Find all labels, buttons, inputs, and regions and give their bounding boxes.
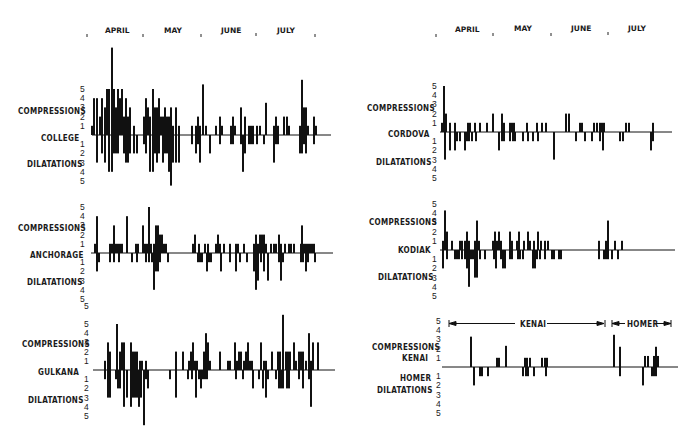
compression-bar [147,107,149,135]
compression-bar [194,361,196,370]
y-tick-label: 1 [80,121,85,131]
compression-bar [443,86,445,132]
compression-bar [243,361,245,370]
compression-bar [156,107,158,135]
compression-bar [605,241,607,250]
y-tick-label: 5 [432,173,437,183]
compression-bar [141,361,143,370]
dilatation-bar [286,370,288,388]
dilatation-bar [288,370,290,388]
compression-bar [109,244,111,253]
compression-bar [529,358,531,367]
compression-bar [111,48,113,135]
compression-bar [188,361,190,370]
compression-bar [308,333,310,370]
compression-bar [284,244,286,253]
compression-bar [315,126,317,135]
dilatation-bar [607,250,609,259]
dilatation-bar [98,253,100,262]
dilatation-bar [235,253,237,271]
compression-bar [265,103,267,135]
compression-bar [469,123,471,132]
compression-bar [134,352,136,370]
compression-bar [113,89,115,135]
dilatation-bar [232,135,234,144]
compression-bar [248,126,250,135]
compression-bar [250,126,252,135]
compression-bar [479,123,481,132]
compression-bar [257,244,259,253]
compression-bar [157,225,159,253]
compression-bar [277,352,279,370]
compression-bar [106,89,108,135]
dilatation-bar [461,250,463,259]
dilatation-bar [164,135,166,153]
compression-bar [275,117,277,135]
dilatation-bar [537,132,539,141]
dilatation-bar [111,135,113,172]
dilatation-bar [197,135,199,144]
compression-bar [126,216,128,253]
dilatation-bar [209,135,211,153]
dilatation-bar [504,250,506,268]
compression-bar [111,244,113,253]
compression-bar [655,347,657,367]
dilatation-bar [522,250,524,259]
compression-bar [527,232,529,250]
dilatation-bar [533,367,535,376]
compression-bar [115,244,117,253]
dilatation-bar [267,253,269,281]
compression-bar [647,356,649,367]
dilatation-bar [140,370,142,398]
dilatation-bar [167,253,169,262]
compression-bar [544,358,546,367]
compression-bar [121,342,123,370]
dilatation-bar [454,250,456,259]
dilatation-bar [204,370,206,379]
compression-bar [215,126,217,135]
compression-bar [149,117,151,135]
dilatation-bar [195,135,197,153]
dilatation-bar [544,250,546,259]
dilatation-bar [195,370,197,398]
dilatation-bar [619,367,621,376]
dilatation-bar [622,132,624,141]
compression-bar [277,126,279,135]
compression-bar [533,241,535,250]
compression-bar [293,342,295,370]
dilatation-bar [265,370,267,398]
compression-bar [119,244,121,253]
dilatation-bar [244,135,246,153]
compression-bar [293,244,295,253]
dilatations-label: DILATATIONS [27,160,83,169]
compression-bar [152,89,154,135]
compression-bar [104,361,106,370]
dilatation-bar [156,135,158,163]
compression-bar [601,123,603,132]
compression-bar [133,126,135,135]
compression-bar [621,241,623,250]
compression-bar [116,324,118,370]
dilatation-bar [157,253,159,271]
compression-bar [579,123,581,132]
range-label-kenai: KENAI [520,320,546,329]
compression-bar [496,358,498,367]
compression-bar [146,244,148,253]
dilatation-bar [298,370,300,379]
dilatation-bar [101,135,103,153]
compression-bar [261,235,263,253]
dilatation-bar [151,253,153,262]
compression-bar [265,244,267,253]
dilatation-bar [145,135,147,153]
compression-bar [547,241,549,250]
compression-bar [302,352,304,370]
compression-bar [245,352,247,370]
compressions-label: COMPRESSIONS [369,218,437,227]
dilatation-bar [575,132,577,141]
compression-bar [454,123,456,132]
compression-bar [464,241,466,250]
dilatation-bar [126,370,128,398]
compression-bar [275,244,277,253]
compression-bar [236,361,238,370]
compression-bar [568,114,570,132]
